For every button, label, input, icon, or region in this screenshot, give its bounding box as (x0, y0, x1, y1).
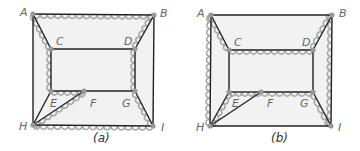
vertex-label-B: B (339, 7, 347, 20)
vertex-label-I: I (338, 121, 341, 134)
vertex-label-A: A (19, 6, 28, 19)
vertex-label-G: G (122, 97, 131, 110)
vertex-label-G: G (300, 97, 309, 110)
graph-diagram: ABCDEFGHI (a) ABCDEFGHI (b) (0, 0, 360, 151)
vertex-label-F: F (90, 97, 97, 110)
vertex-B (329, 12, 334, 17)
vertex-G (310, 89, 315, 94)
graph-b: ABCDEFGHI (b) (196, 7, 347, 145)
vertex-label-H: H (19, 120, 27, 133)
vertex-label-F: F (267, 97, 274, 110)
vertex-label-E: E (50, 97, 57, 110)
vertex-label-A: A (196, 7, 205, 20)
vertex-label-D: D (124, 35, 132, 48)
vertex-G (132, 88, 137, 93)
vertex-F (258, 89, 263, 94)
vertex-E (226, 89, 231, 94)
vertex-H (207, 123, 212, 128)
vertex-label-H: H (196, 121, 204, 134)
vertex-label-E: E (232, 97, 239, 110)
vertex-I (328, 123, 333, 128)
vertex-D (310, 47, 315, 52)
vertex-F (81, 88, 86, 93)
vertex-E (48, 88, 53, 93)
vertex-I (150, 123, 155, 128)
edge-AH (210, 15, 211, 126)
vertex-H (30, 122, 35, 127)
vertex-label-I: I (161, 121, 164, 134)
vertex-A (208, 12, 213, 17)
vertex-label-C: C (56, 35, 64, 48)
edge-BI (153, 15, 154, 126)
edge-BI (331, 15, 332, 126)
edge-AB (33, 14, 154, 15)
vertex-D (132, 46, 137, 51)
vertex-label-C: C (234, 36, 242, 49)
caption-b: (b) (271, 131, 288, 145)
graph-a: ABCDEFGHI (a) (19, 6, 168, 145)
vertex-B (151, 12, 156, 17)
vertex-C (48, 46, 53, 51)
caption-a: (a) (93, 131, 110, 145)
edge-HI (33, 125, 153, 126)
vertex-label-D: D (302, 36, 310, 49)
vertex-A (30, 11, 35, 16)
vertex-C (226, 47, 231, 52)
vertex-label-B: B (160, 7, 168, 20)
